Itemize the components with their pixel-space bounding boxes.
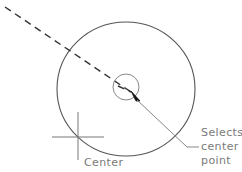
callout-label-line-2: center — [201, 140, 239, 153]
callout-leader-diagonal — [137, 100, 187, 147]
rubber-band-dashed-line — [5, 7, 131, 92]
diagram-canvas: Center Selects center point — [0, 0, 242, 172]
callout-label-line-3: point — [201, 154, 231, 167]
center-point-diagram: Center Selects center point — [0, 0, 242, 172]
callout-leader-line — [137, 100, 199, 147]
callout-label-line-1: Selects — [201, 126, 242, 139]
center-label: Center — [84, 156, 124, 169]
center-crosshair — [52, 112, 104, 160]
